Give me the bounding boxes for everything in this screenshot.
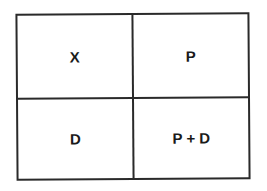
cell-bottom-right: P + D [134,98,249,178]
cell-top-right: P [133,14,248,97]
cell-bottom-left: D [18,99,133,179]
cell-top-left: X [17,15,132,98]
two-by-two-grid: X P D P + D [15,12,250,181]
